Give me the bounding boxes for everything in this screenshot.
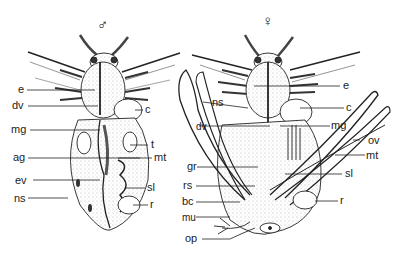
- female-label-rs: rs: [183, 180, 192, 191]
- male-label-t: t: [151, 139, 154, 150]
- anatomy-figure: ♂ ♀ e dv c mg t ag mt ev sl ns r e ns c …: [0, 0, 397, 257]
- female-label-mg: mg: [331, 120, 346, 131]
- male-label-ns: ns: [14, 193, 26, 204]
- male-label-e: e: [18, 84, 24, 95]
- male-label-ag: ag: [13, 152, 25, 163]
- female-label-mt: mt: [366, 150, 378, 161]
- female-label-r: r: [340, 195, 344, 206]
- female-label-mu: mu: [182, 212, 196, 223]
- male-label-r: r: [150, 199, 154, 210]
- female-symbol: ♀: [262, 13, 273, 28]
- female-label-op: op: [185, 233, 197, 244]
- male-body: [28, 35, 180, 230]
- male-symbol: ♂: [97, 17, 108, 32]
- male-label-c: c: [145, 104, 151, 115]
- female-label-c: c: [346, 102, 352, 113]
- female-label-gr: gr: [187, 161, 197, 172]
- male-label-dv: dv: [12, 100, 24, 111]
- male-label-sl: sl: [147, 182, 155, 193]
- female-label-bc: bc: [182, 196, 194, 207]
- male-label-mt: mt: [154, 152, 166, 163]
- female-label-ov: ov: [368, 135, 380, 146]
- female-label-ns: ns: [212, 97, 224, 108]
- female-label-e: e: [343, 80, 349, 91]
- female-label-sl: sl: [345, 168, 353, 179]
- male-label-ev: ev: [15, 175, 27, 186]
- female-label-dv: dv: [196, 121, 207, 132]
- male-label-mg: mg: [11, 124, 26, 135]
- female-body: [179, 35, 390, 234]
